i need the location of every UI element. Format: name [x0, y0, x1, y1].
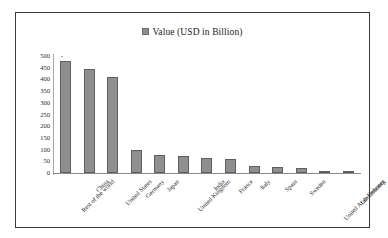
y-axis-tick-label: 150 [40, 135, 50, 142]
bar-slot [78, 56, 102, 173]
y-axis-tick-label: 0 [47, 170, 50, 177]
y-axis-tick-mark [61, 173, 63, 174]
x-axis-category-label: Japan [167, 177, 182, 192]
x-axis-category-labels: Rest of the worldChinaUnited StatesGerma… [54, 175, 360, 227]
x-axis-category-label: Sweden [310, 177, 329, 196]
bar-slot [336, 56, 360, 173]
bar[interactable] [296, 168, 307, 173]
x-axis-category-label: France [239, 177, 256, 194]
x-axis-category-label: Spain [285, 177, 300, 192]
y-axis-tick-label: 100 [40, 146, 50, 153]
bar-slot [125, 56, 149, 173]
y-axis-tick-labels: 500450400350300250200150100500 [24, 56, 50, 173]
y-axis-tick-label: 200 [40, 123, 50, 130]
bar[interactable] [249, 166, 260, 173]
legend-label: Value (USD in Billion) [152, 27, 242, 37]
y-axis-tick-label: 300 [40, 100, 50, 107]
x-axis-line [53, 173, 361, 174]
bar-slot [266, 56, 290, 173]
y-axis-tick-label: 500 [40, 53, 50, 60]
bar[interactable] [319, 171, 330, 173]
bar-slot [313, 56, 337, 173]
bar[interactable] [225, 159, 236, 174]
bar[interactable] [60, 61, 71, 173]
bar[interactable] [131, 150, 142, 173]
bar-slot [54, 56, 78, 173]
bar-slot [195, 56, 219, 173]
y-axis-tick-label: 450 [40, 64, 50, 71]
bar[interactable] [107, 77, 118, 173]
y-axis-tick-label: 50 [44, 158, 51, 165]
bar-slot [148, 56, 172, 173]
chart-legend: Value (USD in Billion) [16, 27, 369, 37]
chart-container: Value (USD in Billion) 50045040035030025… [15, 12, 370, 228]
y-axis-tick-label: 350 [40, 88, 50, 95]
bar-slot [101, 56, 125, 173]
bar-slot [289, 56, 313, 173]
bar-slot [172, 56, 196, 173]
legend-square-marker-icon [142, 28, 149, 35]
y-axis-tick-label: 400 [40, 76, 50, 83]
bar[interactable] [154, 155, 165, 173]
bar[interactable] [201, 158, 212, 173]
bar[interactable] [178, 156, 189, 173]
x-axis-category-label: Italy [260, 177, 273, 190]
plot-area [54, 56, 360, 173]
bar[interactable] [84, 69, 95, 173]
x-axis-category-label: Luxembourg [361, 177, 388, 204]
bar-slot [219, 56, 243, 173]
bar[interactable] [343, 171, 354, 173]
bar-slot [242, 56, 266, 173]
y-axis-tick-label: 250 [40, 111, 50, 118]
bar[interactable] [272, 167, 283, 173]
